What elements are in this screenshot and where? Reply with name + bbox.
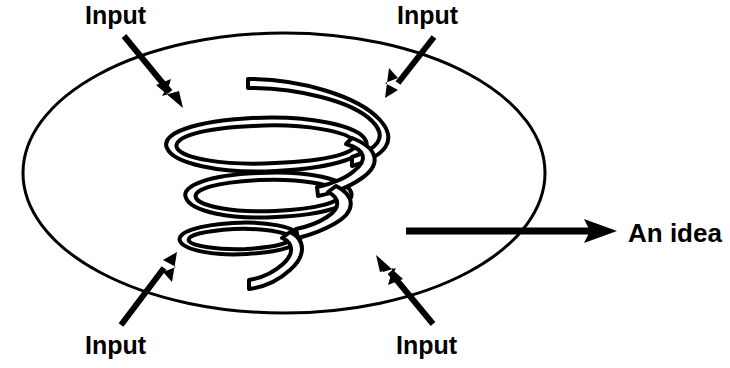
diagram-canvas: Input Input Input Input An idea <box>0 0 730 368</box>
spiral-seg-3-front-inner <box>189 229 291 249</box>
input-label-bottom-right: Input <box>396 331 458 359</box>
output-arrow-an-idea <box>406 219 617 243</box>
output-label-an-idea: An idea <box>628 218 722 248</box>
spiral-coil <box>166 79 400 289</box>
spiral-seg-1-front-inner <box>176 125 355 163</box>
creative-process-diagram: Input Input Input Input An idea <box>0 0 730 368</box>
input-label-bottom-left: Input <box>85 331 147 359</box>
input-label-top-right: Input <box>397 1 459 29</box>
input-label-top-left: Input <box>85 1 147 29</box>
input-arrow-bottom-left <box>121 252 177 325</box>
